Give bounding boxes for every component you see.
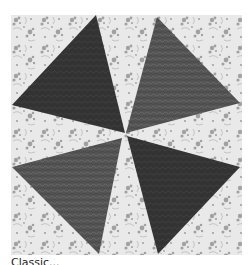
quilt-block-photo (11, 15, 242, 255)
image-frame: Classic... (0, 0, 251, 265)
quilt-svg (11, 15, 242, 255)
caption-text: Classic... (11, 257, 60, 265)
floral-background (11, 15, 242, 255)
